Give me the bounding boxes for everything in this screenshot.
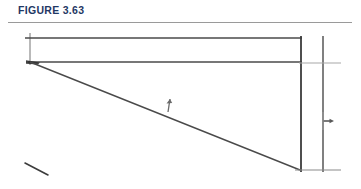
diagonal-member-line — [30, 62, 300, 170]
stray-pencil-stroke-line — [25, 163, 48, 175]
figure-drawing — [0, 0, 361, 189]
figure-page: FIGURE 3.63 — [0, 0, 361, 189]
diagram-canvas — [0, 0, 361, 189]
diagonal-load-arrow-icon — [167, 99, 173, 112]
right-dimension-arrow-icon — [323, 112, 334, 130]
